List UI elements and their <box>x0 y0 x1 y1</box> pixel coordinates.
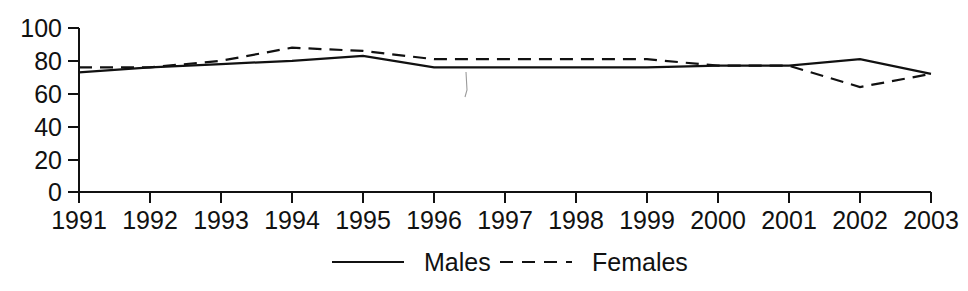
legend-label-females: Females <box>592 248 688 276</box>
chart-canvas: 100 80 60 40 20 0 1991 1992 1 <box>0 0 968 291</box>
x-tick-label: 2000 <box>690 206 746 234</box>
legend-label-males: Males <box>424 248 491 276</box>
x-tick-label: 1997 <box>477 206 533 234</box>
x-tick-label: 1995 <box>335 206 391 234</box>
x-tick-label: 1993 <box>193 206 249 234</box>
y-tick-labels: 100 80 60 40 20 0 <box>20 14 62 206</box>
y-tick-label: 20 <box>34 146 62 174</box>
x-tick-label: 1996 <box>406 206 462 234</box>
x-axis-ticks <box>79 192 931 203</box>
scan-artifact <box>465 72 467 97</box>
y-tick-label: 0 <box>48 178 62 206</box>
x-tick-label: 1992 <box>122 206 178 234</box>
y-axis-ticks <box>68 28 79 192</box>
y-tick-label: 100 <box>20 14 62 42</box>
x-tick-label: 2001 <box>761 206 817 234</box>
line-chart: 100 80 60 40 20 0 1991 1992 1 <box>0 0 968 291</box>
x-tick-label: 1999 <box>619 206 675 234</box>
x-tick-label: 1991 <box>51 206 107 234</box>
x-tick-label: 1994 <box>264 206 320 234</box>
x-tick-label: 2002 <box>832 206 888 234</box>
y-tick-label: 40 <box>34 113 62 141</box>
x-tick-label: 1998 <box>548 206 604 234</box>
y-tick-label: 60 <box>34 80 62 108</box>
x-tick-labels: 1991 1992 1993 1994 1995 1996 1997 1998 … <box>51 206 959 234</box>
y-tick-label: 80 <box>34 47 62 75</box>
chart-legend: Males Females <box>332 248 688 276</box>
x-tick-label: 2003 <box>903 206 959 234</box>
